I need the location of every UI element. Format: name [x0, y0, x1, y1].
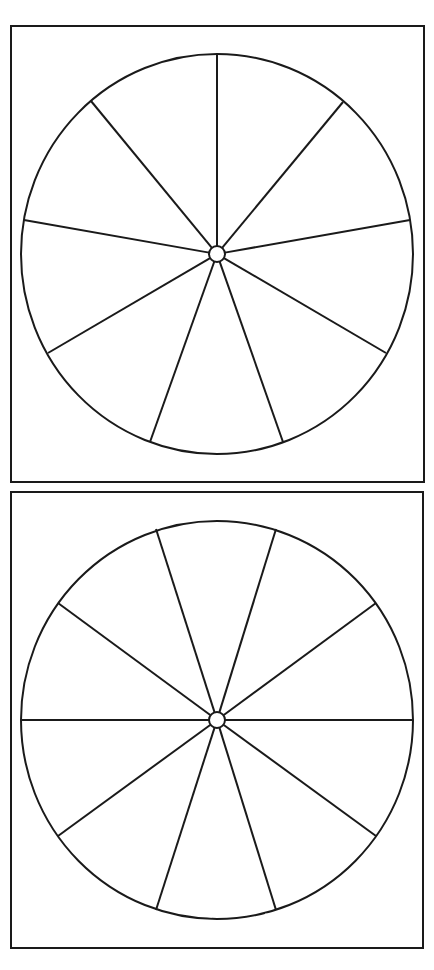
segment-divider: [224, 258, 386, 353]
segment-divider: [223, 603, 376, 715]
diagram-canvas: [0, 0, 434, 970]
segment-divider: [219, 529, 276, 712]
segment-divider: [24, 220, 209, 253]
arc-gap: [156, 915, 170, 916]
segment-divider: [156, 529, 215, 712]
arc-gap: [203, 915, 212, 916]
arc-gap: [265, 915, 276, 916]
segment-divider: [58, 725, 211, 836]
ten-segment-circle-panel: [11, 492, 423, 948]
segment-divider: [58, 603, 211, 715]
segment-divider: [220, 262, 283, 442]
segment-divider: [225, 220, 410, 253]
segment-divider: [219, 728, 276, 910]
segment-divider: [156, 728, 215, 910]
nine-segment-circle-panel: [11, 26, 424, 482]
center-hub: [209, 712, 225, 728]
segment-divider: [223, 725, 376, 836]
segment-divider: [222, 102, 343, 248]
segment-divider: [91, 101, 212, 248]
center-hub: [209, 246, 225, 262]
